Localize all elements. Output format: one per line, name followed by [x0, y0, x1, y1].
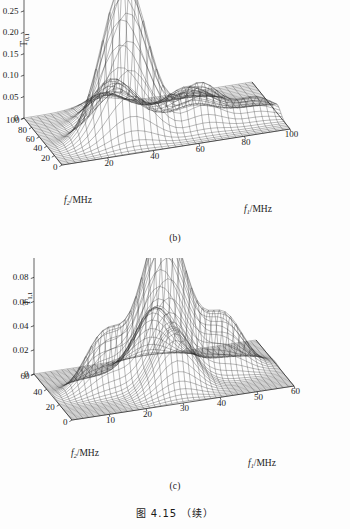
surface-plot-panel-c: 00.020.040.060.080.100.12020406010203040… [0, 258, 350, 498]
svg-text:40: 40 [217, 398, 227, 408]
svg-text:40: 40 [150, 151, 160, 161]
svg-text:0: 0 [63, 417, 68, 427]
svg-text:f2/MHz: f2/MHz [64, 195, 92, 206]
svg-text:20: 20 [105, 158, 115, 168]
plot-area-b: 00.050.100.150.200.250.300.3502040608010… [0, 0, 350, 225]
surface-chart-b: 00.050.100.150.200.250.300.3502040608010… [0, 0, 350, 225]
svg-text:40: 40 [33, 143, 43, 153]
svg-text:20: 20 [143, 409, 153, 419]
svg-text:20: 20 [46, 402, 56, 412]
svg-text:f2/MHz: f2/MHz [71, 448, 99, 459]
svg-text:0.04: 0.04 [13, 321, 29, 331]
svg-text:100: 100 [285, 129, 299, 139]
svg-text:60: 60 [26, 134, 36, 144]
svg-text:50: 50 [254, 392, 264, 402]
figure-page: 00.050.100.150.200.250.300.3502040608010… [0, 0, 350, 529]
svg-text:0.20: 0.20 [3, 27, 19, 37]
svg-text:80: 80 [18, 125, 28, 135]
svg-text:30: 30 [180, 403, 190, 413]
surface-plot-panel-b: 00.050.100.150.200.250.300.3502040608010… [0, 0, 350, 258]
svg-text:60: 60 [291, 386, 301, 396]
svg-text:40: 40 [33, 387, 43, 397]
svg-text:80: 80 [241, 137, 251, 147]
svg-text:0.15: 0.15 [3, 49, 19, 59]
surface-chart-c: 00.020.040.060.080.100.12020406010203040… [0, 258, 350, 483]
svg-text:60: 60 [196, 144, 206, 154]
svg-text:0: 0 [53, 162, 58, 172]
axis-labels: 00.050.100.150.200.250.300.3502040608010… [3, 0, 299, 215]
svg-text:20: 20 [41, 153, 51, 163]
svg-text:100: 100 [6, 115, 20, 125]
svg-text:f1/MHz: f1/MHz [248, 458, 276, 469]
panel-sublabel-b: (b) [0, 233, 350, 243]
svg-text:0.02: 0.02 [13, 345, 29, 355]
svg-text:0.08: 0.08 [13, 272, 29, 282]
svg-text:60: 60 [21, 371, 31, 381]
plot-area-c: 00.020.040.060.080.100.12020406010203040… [0, 258, 350, 483]
svg-text:0.10: 0.10 [3, 70, 19, 80]
svg-text:T0,1: T0,1 [19, 33, 30, 47]
figure-caption: 图 4.15 （续） [0, 505, 350, 520]
panel-sublabel-c: (c) [0, 481, 350, 491]
svg-text:0.25: 0.25 [3, 6, 19, 16]
svg-text:0.05: 0.05 [3, 92, 19, 102]
svg-text:f1/MHz: f1/MHz [244, 204, 272, 215]
svg-text:10: 10 [106, 415, 116, 425]
